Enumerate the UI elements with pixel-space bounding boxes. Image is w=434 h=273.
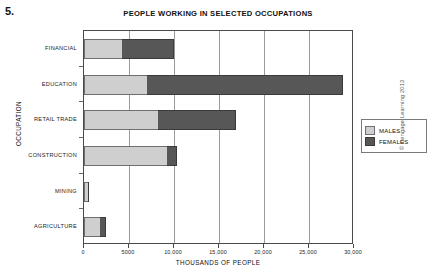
x-axis-title: THOUSANDS OF PEOPLE bbox=[83, 259, 353, 266]
x-axis-tick bbox=[173, 244, 174, 248]
x-axis-tick bbox=[263, 244, 264, 248]
legend-item-females: FEMALES bbox=[365, 137, 423, 146]
bar-segment-males bbox=[84, 110, 158, 130]
x-axis-tick-label: 15,000 bbox=[209, 249, 227, 255]
x-axis-tick bbox=[218, 244, 219, 248]
gridline bbox=[174, 31, 175, 243]
legend-swatch-males-icon bbox=[365, 126, 375, 135]
chart-title: PEOPLE WORKING IN SELECTED OCCUPATIONS bbox=[83, 9, 353, 18]
bar-segment-females bbox=[147, 75, 343, 95]
y-axis-tick bbox=[79, 173, 83, 174]
y-axis-category-label: FINANCIAL bbox=[1, 45, 77, 51]
x-axis-tick-label: 5000 bbox=[122, 249, 135, 255]
y-axis-tick bbox=[79, 101, 83, 102]
bar-segment-males bbox=[84, 217, 100, 237]
bar-segment-females bbox=[88, 182, 90, 202]
figure-container: 5. PEOPLE WORKING IN SELECTED OCCUPATION… bbox=[0, 0, 434, 273]
x-axis-tick-label: 20,000 bbox=[254, 249, 272, 255]
x-axis-tick bbox=[308, 244, 309, 248]
y-axis-category-label: MINING bbox=[1, 188, 77, 194]
gridline bbox=[309, 31, 310, 243]
y-axis-tick bbox=[79, 137, 83, 138]
x-axis-tick-label: 25,000 bbox=[299, 249, 317, 255]
bar-education bbox=[84, 75, 343, 95]
y-axis-category-label: AGRICULTURE bbox=[1, 223, 77, 229]
legend-label-males: MALES bbox=[379, 128, 400, 134]
bar-mining bbox=[84, 182, 89, 202]
gridline bbox=[264, 31, 265, 243]
x-axis-tick bbox=[128, 244, 129, 248]
bar-segment-females bbox=[167, 146, 177, 166]
plot-area bbox=[83, 30, 353, 244]
x-axis-tick bbox=[83, 244, 84, 248]
bar-segment-females bbox=[158, 110, 236, 130]
y-axis-category-label: CONSTRUCTION bbox=[1, 152, 77, 158]
bar-agriculture bbox=[84, 217, 106, 237]
bar-segment-males bbox=[84, 146, 167, 166]
bar-segment-females bbox=[100, 217, 105, 237]
x-axis-tick-label: 30,000 bbox=[344, 249, 362, 255]
legend-swatch-females-icon bbox=[365, 137, 375, 146]
y-axis-tick bbox=[79, 66, 83, 67]
legend: MALES FEMALES bbox=[361, 119, 427, 153]
y-axis-category-label: EDUCATION bbox=[1, 81, 77, 87]
bar-construction bbox=[84, 146, 177, 166]
y-axis-tick bbox=[79, 208, 83, 209]
y-axis-category-label: RETAIL TRADE bbox=[1, 116, 77, 122]
copyright-credit: © Cengage Learning 2013 bbox=[399, 60, 405, 150]
x-axis-tick bbox=[353, 244, 354, 248]
gridline bbox=[219, 31, 220, 243]
bar-segment-females bbox=[122, 39, 174, 59]
bar-financial bbox=[84, 39, 174, 59]
bar-segment-males bbox=[84, 75, 147, 95]
x-axis-tick-label: 0 bbox=[81, 249, 84, 255]
legend-item-males: MALES bbox=[365, 126, 423, 135]
question-number: 5. bbox=[5, 5, 14, 17]
bar-segment-males bbox=[84, 39, 122, 59]
x-axis-tick-label: 10,000 bbox=[164, 249, 182, 255]
bar-retail-trade bbox=[84, 110, 236, 130]
gridline bbox=[129, 31, 130, 243]
